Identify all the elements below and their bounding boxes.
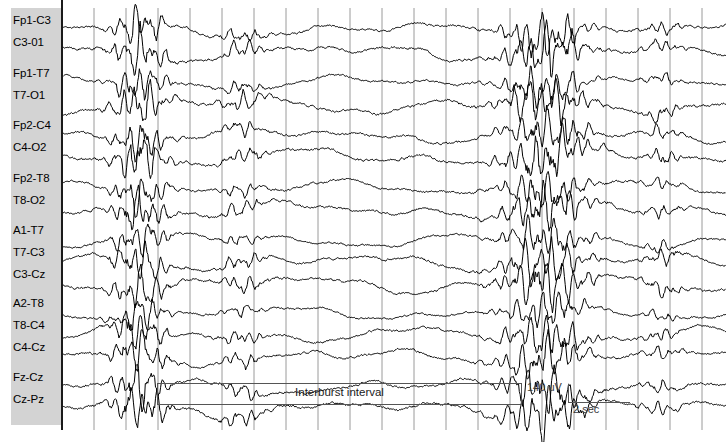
time-scale-bar [568, 384, 630, 403]
time-scale-label: 2 sec [573, 403, 599, 415]
eeg-traces [62, 0, 726, 442]
eeg-recording-figure: Fp1-C3C3-01Fp1-T7T7-O1Fp2-C4C4-O2Fp2-T8T… [0, 0, 726, 442]
channel-label-a2-t8: A2-T8 [13, 297, 44, 309]
channel-label-t8-o2: T8-O2 [13, 194, 45, 206]
channel-group-left-transverse [62, 215, 726, 313]
trace-t8-c4 [62, 315, 726, 353]
channel-label-c3-cz: C3-Cz [13, 268, 45, 280]
trace-a1-t7 [62, 215, 726, 258]
channel-label-cz-pz: Cz-Pz [13, 393, 44, 405]
trace-c4-o2 [62, 123, 726, 179]
channel-group-right-transverse [62, 292, 726, 379]
channel-label-fp1-t7: Fp1-T7 [13, 67, 49, 79]
channel-label-fp2-t8: Fp2-T8 [13, 172, 49, 184]
channel-label-c4-o2: C4-O2 [13, 141, 46, 153]
channel-label-t7-c3: T7-C3 [13, 246, 44, 258]
channel-label-fz-cz: Fz-Cz [13, 371, 43, 383]
trace-fp2-c4 [62, 105, 726, 162]
channel-label-t8-c4: T8-C4 [13, 319, 44, 331]
amplitude-scale-label: 140 uV [527, 381, 562, 393]
channel-group-right-temporal [62, 171, 726, 231]
channel-label-t7-o1: T7-O1 [13, 89, 45, 101]
eeg-plot-area [62, 0, 726, 442]
trace-c4-cz [62, 329, 726, 378]
channel-label-c4-cz: C4-Cz [13, 341, 45, 353]
trace-c3-cz [62, 263, 726, 312]
channel-label-fp2-c4: Fp2-C4 [13, 119, 51, 131]
channel-group-left-parasagittal [62, 4, 726, 77]
channel-group-left-temporal [62, 66, 726, 126]
channel-label-a1-t7: A1-T7 [13, 224, 44, 236]
channel-group-right-parasagittal [62, 105, 726, 178]
interburst-interval-label: Interburst interval [157, 386, 522, 398]
trace-t8-o2 [62, 180, 726, 231]
trace-t7-o1 [62, 78, 726, 126]
channel-label-fp1-c3: Fp1-C3 [13, 14, 51, 26]
trace-fp1-c3 [62, 4, 726, 58]
label-divider [61, 0, 63, 430]
channel-label-c3-01: C3-01 [13, 36, 44, 48]
